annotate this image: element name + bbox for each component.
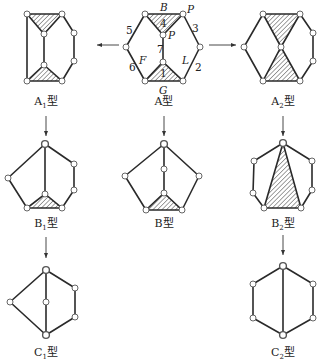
label-B: B (159, 1, 168, 13)
label-P-top: P (186, 3, 195, 15)
caption-C2: C2型 (271, 343, 295, 361)
graph-A2 (241, 11, 316, 84)
label-7: 7 (157, 43, 164, 55)
caption-B2: B2型 (271, 214, 295, 232)
label-P-inner: P (167, 29, 176, 41)
caption-A1: A1型 (34, 92, 57, 110)
graph-B (122, 141, 202, 213)
topology-diagram: B P 4 P 7 3 5 6 F L 2 1 G (0, 0, 324, 362)
label-5: 5 (126, 24, 133, 36)
label-3: 3 (192, 22, 199, 34)
caption-B: B型 (154, 214, 173, 230)
graph-B2 (250, 140, 315, 211)
caption-C1: C1型 (34, 343, 58, 361)
label-L: L (181, 54, 189, 66)
label-F: F (138, 54, 147, 66)
label-2: 2 (195, 61, 202, 73)
label-1: 1 (160, 67, 167, 79)
graph-C1 (7, 267, 78, 339)
graph-A: B P 4 P 7 3 5 6 F L 2 1 G (123, 1, 203, 96)
label-6: 6 (129, 61, 136, 73)
graph-C2 (250, 263, 316, 339)
label-4: 4 (160, 17, 167, 29)
graph-A1 (24, 11, 77, 84)
graph-B1 (5, 141, 77, 211)
caption-A2: A2型 (271, 92, 294, 110)
caption-B1: B1型 (34, 214, 58, 232)
caption-A: A型 (155, 92, 174, 108)
